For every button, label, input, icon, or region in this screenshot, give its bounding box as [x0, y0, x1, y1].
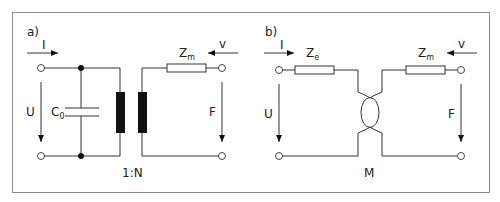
terminal-b-out-bottom: [458, 153, 465, 160]
panel-a-label: a): [27, 25, 39, 39]
gyrator: M: [358, 92, 382, 180]
svg-text:Zm: Zm: [418, 46, 434, 62]
velocity-label-a: v: [219, 37, 226, 51]
current-arrow-a: I: [27, 38, 58, 53]
terminal-a-in-bottom: [38, 153, 45, 160]
current-label-a: I: [42, 38, 46, 52]
voltage-label-a: U: [26, 105, 35, 119]
terminal-b-in-bottom: [276, 153, 283, 160]
terminal-b-out-top: [458, 67, 465, 74]
terminal-a-in-top: [38, 65, 45, 72]
panel-b: b) I Ze U M: [264, 25, 477, 180]
terminal-a-out-top: [219, 65, 226, 72]
equivalent-circuit-diagram: a) I U C0 1:N: [0, 0, 500, 202]
transformer-ratio-label: 1:N: [122, 166, 143, 180]
terminal-b-in-top: [276, 67, 283, 74]
mechanical-impedance-a: Zm: [167, 46, 219, 72]
capacitor-c0: C0: [51, 65, 99, 159]
force-label-b: F: [448, 107, 455, 121]
gyrator-label: M: [364, 166, 374, 180]
velocity-label-b: v: [458, 37, 465, 51]
force-label-a: F: [209, 105, 216, 119]
panel-b-label: b): [265, 25, 277, 39]
mechanical-impedance-b: Zm: [406, 46, 458, 74]
electrical-impedance-b: Ze: [282, 46, 334, 74]
svg-text:Zm: Zm: [179, 46, 195, 62]
capacitor-label: C0: [51, 105, 64, 121]
panel-a: a) I U C0 1:N: [26, 25, 238, 180]
svg-text:Ze: Ze: [306, 46, 319, 62]
terminal-a-out-bottom: [219, 153, 226, 160]
current-label-b: I: [280, 38, 284, 52]
figure-frame: [13, 13, 490, 193]
voltage-label-b: U: [264, 107, 273, 121]
